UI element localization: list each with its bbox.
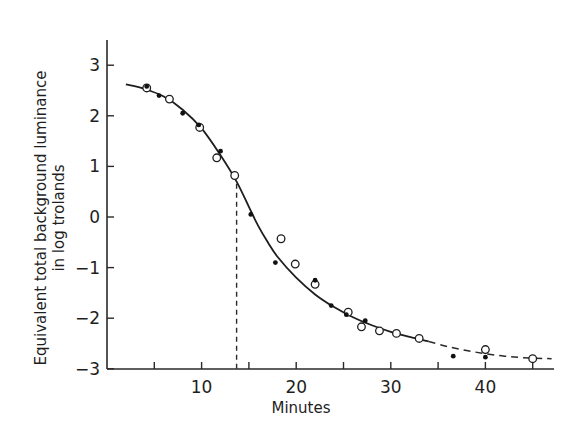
data-points (143, 84, 537, 362)
open-circle-point (231, 172, 239, 180)
x-tick-label: 10 (191, 377, 213, 397)
filled-circle-point (273, 260, 278, 265)
y-axis-title-line2: in log trolands (50, 164, 68, 271)
open-circle-point (166, 95, 174, 103)
open-circle-point (277, 235, 285, 243)
open-circle-point (291, 260, 299, 268)
y-tick-label: 0 (89, 207, 100, 227)
filled-circle-point (363, 318, 368, 323)
open-circle-point (415, 335, 423, 343)
filled-circle-point (483, 355, 488, 360)
open-circle-point (376, 327, 384, 335)
x-ticks (154, 362, 532, 369)
dark-adaptation-chart: 10203040 3210−1−2−3 Minutes Equivalent t… (0, 0, 582, 436)
filled-circle-point (313, 278, 318, 283)
y-tick-label: 3 (89, 55, 100, 75)
fitted-curves (126, 84, 552, 358)
open-circle-point (358, 323, 366, 331)
y-tick-labels: 3210−1−2−3 (75, 55, 100, 379)
filled-circle-point (344, 312, 349, 317)
open-circle-point (529, 355, 537, 363)
y-tick-label: 1 (89, 156, 100, 176)
filled-circle-point (329, 303, 334, 308)
open-circle-point (482, 346, 490, 354)
y-tick-label: −3 (75, 359, 100, 379)
filled-circle-point (451, 354, 456, 359)
axes (107, 40, 554, 369)
y-ticks (107, 65, 114, 369)
x-axis-title: Minutes (271, 399, 330, 417)
y-axis-title-line1: Equivalent total background luminance (32, 71, 50, 366)
y-tick-label: −2 (75, 308, 100, 328)
filled-circle-point (144, 84, 149, 89)
open-circle-point (213, 154, 221, 162)
x-tick-labels: 10203040 (191, 377, 496, 397)
x-tick-label: 20 (285, 377, 307, 397)
filled-circle-point (218, 149, 223, 154)
filled-circle-point (196, 123, 201, 128)
filled-circle-point (248, 212, 253, 217)
filled-circle-point (157, 93, 162, 98)
x-tick-label: 30 (380, 377, 402, 397)
y-tick-label: 2 (89, 106, 100, 126)
fitted-curve-solid (126, 84, 429, 341)
open-circle-point (393, 330, 401, 338)
filled-circle-point (180, 111, 185, 116)
x-tick-label: 40 (475, 377, 497, 397)
y-tick-label: −1 (75, 258, 100, 278)
